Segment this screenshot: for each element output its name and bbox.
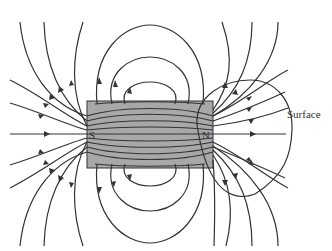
south-pole-label: S	[89, 129, 95, 141]
top-loops	[96, 25, 203, 104]
north-pole-label: N	[202, 129, 210, 141]
surface-label: Surface	[287, 108, 321, 120]
bar-magnet-field-diagram: S N Surface	[0, 0, 332, 251]
bottom-loops	[96, 164, 203, 243]
